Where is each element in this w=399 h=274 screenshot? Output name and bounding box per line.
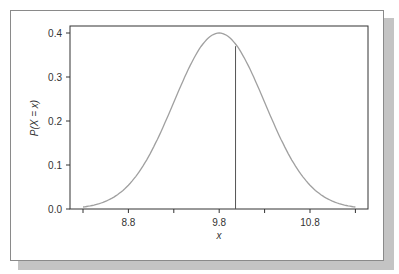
y-tick-label: 0.0 bbox=[48, 204, 62, 215]
y-tick-label: 0.1 bbox=[48, 160, 62, 171]
x-tick-label: 8.8 bbox=[121, 217, 135, 228]
y-tick-label: 0.4 bbox=[48, 28, 62, 39]
y-tick-label: 0.3 bbox=[48, 72, 62, 83]
plot-area-border bbox=[70, 26, 368, 209]
x-axis: 8.89.810.8 bbox=[83, 209, 355, 228]
x-tick-label: 9.8 bbox=[212, 217, 226, 228]
x-tick-label: 10.8 bbox=[300, 217, 320, 228]
y-axis: 0.00.10.20.30.4 bbox=[48, 28, 70, 215]
y-tick-label: 0.2 bbox=[48, 116, 62, 127]
y-axis-title: P(X = x) bbox=[29, 100, 40, 136]
chart: 0.00.10.20.30.4 8.89.810.8 x P(X = x) bbox=[0, 0, 399, 274]
x-axis-title: x bbox=[216, 230, 223, 241]
density-curve bbox=[83, 33, 355, 207]
